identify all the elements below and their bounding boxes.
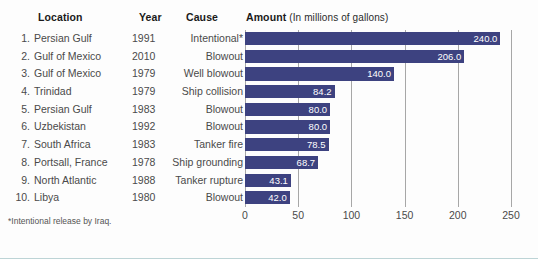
x-tick-label: 100	[343, 209, 361, 221]
bar-value-label: 80.0	[245, 120, 330, 133]
row-rank: 7.	[8, 138, 30, 150]
row-cause: Tanker rupture	[175, 174, 243, 186]
row-year: 1983	[132, 138, 164, 150]
oil-spills-chart-figure: Location Year Cause Amount (In millions …	[0, 0, 538, 259]
row-rank: 4.	[8, 85, 30, 97]
row-location: Gulf of Mexico	[34, 50, 101, 62]
row-year: 1979	[132, 67, 164, 79]
row-cause: Blowout	[206, 103, 243, 115]
bar-value-label: 43.1	[245, 174, 291, 187]
row-rank: 9.	[8, 174, 30, 186]
table-row: 4.Trinidad1979Ship collision	[0, 83, 245, 101]
row-location: North Atlantic	[34, 174, 96, 186]
bar-value-label: 78.5	[245, 138, 329, 151]
row-year: 1978	[132, 156, 164, 168]
bar-row: 80.0	[245, 101, 511, 119]
row-year: 1992	[132, 120, 164, 132]
row-location: Trinidad	[34, 85, 72, 97]
row-year: 1980	[132, 191, 164, 203]
row-cause: Blowout	[206, 50, 243, 62]
bar-plot-area: 240.0206.0140.084.280.080.078.568.743.14…	[245, 30, 511, 207]
table-row: 9.North Atlantic1988Tanker rupture	[0, 172, 245, 190]
table-row: 6.Uzbekistan1992Blowout	[0, 118, 245, 136]
row-location: Libya	[34, 191, 59, 203]
row-cause: Blowout	[206, 191, 243, 203]
gridline	[511, 30, 512, 207]
bar-row: 240.0	[245, 30, 511, 48]
bar-row: 42.0	[245, 189, 511, 207]
row-year: 1988	[132, 174, 164, 186]
column-header-year: Year	[139, 11, 162, 23]
row-year: 2010	[132, 50, 164, 62]
bars-group: 240.0206.0140.084.280.080.078.568.743.14…	[245, 30, 511, 207]
row-cause: Tanker fire	[194, 138, 243, 150]
table-row: 3.Gulf of Mexico1979Well blowout	[0, 65, 245, 83]
table-row: 7.South Africa1983Tanker fire	[0, 136, 245, 154]
bar-row: 68.7	[245, 154, 511, 172]
bar-value-label: 140.0	[245, 67, 394, 80]
row-cause: Blowout	[206, 120, 243, 132]
footnote: *Intentional release by Iraq.	[8, 216, 111, 226]
row-rank: 1.	[8, 32, 30, 44]
row-location: South Africa	[34, 138, 91, 150]
bar-row: 80.0	[245, 118, 511, 136]
table-row: 8.Portsall, France1978Ship grounding	[0, 154, 245, 172]
data-table: 1.Persian Gulf1991Intentional*2.Gulf of …	[0, 30, 245, 207]
bar-value-label: 68.7	[245, 156, 318, 169]
row-location: Persian Gulf	[34, 103, 92, 115]
column-header-cause: Cause	[186, 11, 218, 23]
x-tick-label: 250	[502, 209, 520, 221]
column-header-amount-label: Amount	[246, 11, 286, 23]
row-rank: 5.	[8, 103, 30, 115]
row-location: Portsall, France	[34, 156, 108, 168]
row-rank: 2.	[8, 50, 30, 62]
x-tick-label: 0	[242, 209, 248, 221]
x-tick-label: 200	[449, 209, 467, 221]
row-cause: Well blowout	[184, 67, 243, 79]
row-cause: Ship collision	[182, 85, 243, 97]
row-cause: Ship grounding	[172, 156, 243, 168]
bar-value-label: 206.0	[245, 50, 464, 63]
column-header-amount-unit: (In millions of gallons)	[289, 12, 388, 23]
bar-row: 84.2	[245, 83, 511, 101]
row-rank: 8.	[8, 156, 30, 168]
bar-row: 78.5	[245, 136, 511, 154]
bar-value-label: 240.0	[245, 32, 500, 45]
row-rank: 3.	[8, 67, 30, 79]
row-cause: Intentional*	[190, 32, 243, 44]
x-axis: 050100150200250	[245, 207, 511, 227]
table-row: 5.Persian Gulf1983Blowout	[0, 101, 245, 119]
row-location: Gulf of Mexico	[34, 67, 101, 79]
row-year: 1979	[132, 85, 164, 97]
row-rank: 6.	[8, 120, 30, 132]
bar-row: 140.0	[245, 65, 511, 83]
x-tick-label: 150	[396, 209, 414, 221]
row-location: Persian Gulf	[34, 32, 92, 44]
row-year: 1983	[132, 103, 164, 115]
column-header-amount: Amount (In millions of gallons)	[246, 11, 388, 23]
column-header-location: Location	[38, 11, 83, 23]
bar-row: 43.1	[245, 172, 511, 190]
table-row: 2.Gulf of Mexico2010Blowout	[0, 48, 245, 66]
bar-value-label: 80.0	[245, 103, 330, 116]
table-row: 1.Persian Gulf1991Intentional*	[0, 30, 245, 48]
x-tick-label: 50	[292, 209, 304, 221]
row-location: Uzbekistan	[34, 120, 86, 132]
bar-value-label: 84.2	[245, 85, 335, 98]
bar-value-label: 42.0	[245, 191, 290, 204]
table-row: 10.Libya1980Blowout	[0, 189, 245, 207]
bar-row: 206.0	[245, 48, 511, 66]
row-year: 1991	[132, 32, 164, 44]
row-rank: 10.	[8, 191, 30, 203]
